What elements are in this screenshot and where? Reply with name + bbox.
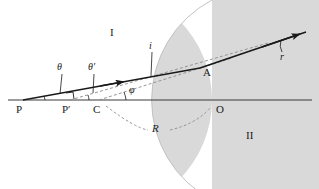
optics-diagram: I II P P′ C A O θ θ′ i r φ R: [0, 0, 319, 189]
angle-theta-label: θ: [57, 62, 62, 72]
angle-refraction-label: r: [280, 52, 284, 62]
angle-incidence-label: i: [149, 41, 152, 51]
point-o-label: O: [216, 104, 224, 115]
point-p-prime-label: P′: [62, 104, 71, 115]
point-c-label: C: [93, 104, 100, 115]
region-two-label: II: [246, 130, 253, 141]
diagram-canvas: [0, 0, 319, 189]
point-p-label: P: [16, 104, 22, 115]
point-a-label: A: [203, 67, 211, 78]
radius-label: R: [152, 123, 159, 134]
region-one-label: I: [110, 27, 114, 38]
angle-theta-prime-label: θ′: [88, 62, 95, 72]
angle-phi-label: φ: [129, 85, 135, 95]
